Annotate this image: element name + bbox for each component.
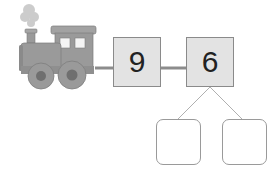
train-engine-icon xyxy=(19,4,96,89)
answer-box-right[interactable] xyxy=(222,119,267,165)
train-car-2: 6 xyxy=(186,37,234,87)
branch-line-left xyxy=(178,87,210,119)
answer-box-left[interactable] xyxy=(156,119,201,165)
branch-line-right xyxy=(210,87,242,119)
number-bond-diagram: 9 6 xyxy=(0,0,273,177)
train-car-1: 9 xyxy=(113,37,161,87)
